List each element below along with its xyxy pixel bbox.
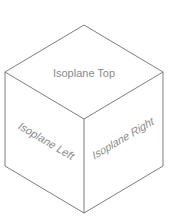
top-face-label: Isoplane Top bbox=[53, 67, 115, 79]
isometric-cube-diagram: Isoplane Top Isoplane Left Isoplane Righ… bbox=[0, 0, 170, 222]
